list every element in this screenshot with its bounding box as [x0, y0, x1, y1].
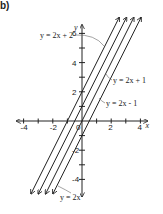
y-tick-label: -4: [72, 175, 80, 184]
label-2x: y = 2x: [60, 193, 81, 202]
x-tick-label: -4: [21, 123, 29, 132]
label-2x-leader: [58, 186, 71, 193]
label-2x-minus-1: y = 2x - 1: [106, 99, 137, 108]
label-2x-plus-2-leader: [75, 35, 104, 46]
x-axis-label: x: [145, 121, 150, 130]
graph: -4-2024-4-2246xy y = 2x + 2y = 2x + 1y =…: [0, 0, 163, 214]
axes: -4-2024-4-2246xy: [16, 23, 149, 197]
x-tick-label: -2: [50, 123, 58, 132]
y-tick-label: 2: [72, 88, 77, 97]
label-2x-plus-1: y = 2x + 1: [113, 76, 146, 85]
y-tick-label: 4: [72, 59, 77, 68]
x-tick-label: 4: [137, 123, 142, 132]
equation-labels: y = 2x + 2y = 2x + 1y = 2x - 1y = 2x: [40, 31, 146, 202]
x-tick-label: 2: [108, 123, 113, 132]
y-axis-label: y: [73, 23, 78, 32]
label-2x-plus-2: y = 2x + 2: [40, 31, 73, 40]
